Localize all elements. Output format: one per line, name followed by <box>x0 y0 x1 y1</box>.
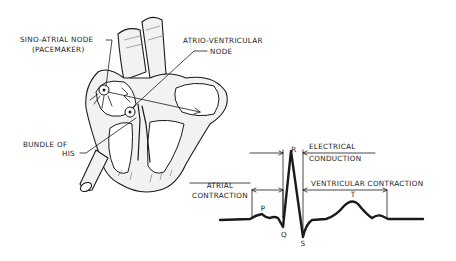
ecg-waveform <box>220 151 423 237</box>
conduction-diagram: SINO-ATRIAL NODE (PACEMAKER) ATRIO-VENTR… <box>0 0 456 261</box>
av-node-marker <box>125 107 135 117</box>
av-node-label: ATRIO-VENTRICULAR <box>183 36 263 45</box>
electrical-label: ELECTRICAL <box>309 142 356 151</box>
atrial-contraction-label: CONTRACTION <box>192 191 248 200</box>
wave-r-label: R <box>291 145 296 154</box>
superior-vena-cava <box>118 29 146 80</box>
ventricular-label: VENTRICULAR CONTRACTION <box>311 179 423 188</box>
wave-p-label: P <box>261 204 266 213</box>
atrial-bracket <box>252 188 283 218</box>
bundle-label: BUNDLE OF <box>23 140 67 149</box>
wave-s-label: S <box>301 239 306 248</box>
atrial-label: ATRIAL <box>207 181 234 190</box>
left-atrium <box>175 83 219 115</box>
wave-q-label: Q <box>281 230 287 239</box>
bundle-sublabel: HIS <box>62 149 75 158</box>
sa-node-sublabel: (PACEMAKER) <box>32 45 85 54</box>
av-node-sublabel: NODE <box>210 47 232 56</box>
ventricular-bracket <box>303 188 387 218</box>
sa-node-label: SINO-ATRIAL NODE <box>20 35 93 44</box>
wave-t-label: T <box>350 190 356 199</box>
conduction-label: CONDUCTION <box>309 154 361 163</box>
